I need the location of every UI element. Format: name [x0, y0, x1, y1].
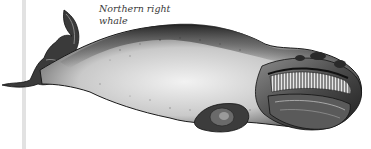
whale-illustration [0, 0, 371, 149]
